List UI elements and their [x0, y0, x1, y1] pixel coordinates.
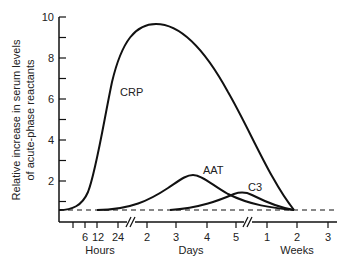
- svg-text:8: 8: [48, 52, 54, 64]
- svg-text:2: 2: [48, 175, 54, 187]
- svg-text:2: 2: [294, 231, 300, 243]
- x-ticks: [73, 222, 328, 228]
- svg-text:Days: Days: [178, 244, 204, 256]
- svg-text:3: 3: [325, 231, 331, 243]
- svg-text:24: 24: [112, 231, 124, 243]
- axis-break-1: [126, 216, 135, 227]
- label-aat: AAT: [203, 164, 224, 176]
- svg-text:12: 12: [92, 231, 104, 243]
- svg-text:6: 6: [82, 231, 88, 243]
- svg-text:4: 4: [204, 231, 210, 243]
- label-c3: C3: [248, 181, 262, 193]
- y-tick-labels: 2 4 6 8 10: [42, 11, 54, 187]
- y-ticks: [59, 17, 66, 202]
- svg-text:1: 1: [264, 231, 270, 243]
- x-group-labels: Hours Days Weeks: [85, 244, 314, 256]
- axis-break-2: [243, 216, 252, 227]
- svg-text:2: 2: [144, 231, 150, 243]
- series-aat: [97, 175, 294, 210]
- svg-text:5: 5: [233, 231, 239, 243]
- svg-text:Hours: Hours: [85, 244, 115, 256]
- svg-text:10: 10: [42, 11, 54, 23]
- acute-phase-chart: Relative increase in serum levels of acu…: [0, 0, 345, 269]
- svg-text:Weeks: Weeks: [280, 244, 314, 256]
- label-crp: CRP: [120, 86, 143, 98]
- svg-text:4: 4: [48, 134, 54, 146]
- x-tick-labels: 6 12 24 2 3 4 5 1 2 3: [82, 231, 331, 243]
- y-axis-label-line2: of acute-phase reactants: [24, 59, 36, 181]
- y-axis-label-line1: Relative increase in serum levels: [10, 39, 22, 200]
- svg-text:6: 6: [48, 93, 54, 105]
- svg-text:3: 3: [173, 231, 179, 243]
